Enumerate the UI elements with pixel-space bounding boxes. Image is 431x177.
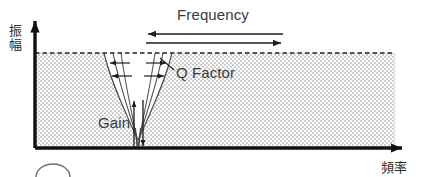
x-axis-label: 頻率 — [381, 157, 407, 176]
frequency-arrows — [146, 34, 283, 43]
q-factor-label: Q Factor — [176, 64, 235, 81]
y-axis-label: 振 幅 — [8, 24, 23, 51]
frequency-label: Frequency — [177, 6, 249, 23]
y-axis-label-char-2: 幅 — [8, 38, 23, 52]
y-axis-label-char-1: 振 — [8, 24, 23, 38]
response-curve-figure: Frequency Q Factor Gain 振 幅 頻率 — [0, 0, 431, 177]
figure-canvas — [0, 0, 431, 177]
figure-marker-arc — [36, 164, 70, 177]
gain-label: Gain — [98, 114, 130, 131]
